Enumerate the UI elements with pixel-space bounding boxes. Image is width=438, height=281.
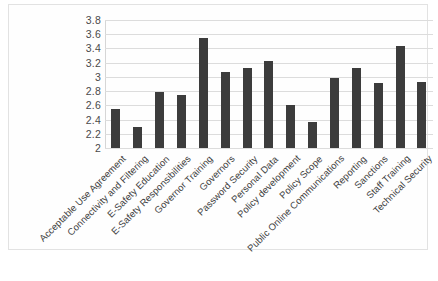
bar-slot — [214, 20, 236, 148]
bar-slot — [127, 20, 149, 148]
bar[interactable] — [417, 82, 426, 148]
bar[interactable] — [177, 95, 186, 148]
y-axis-tick-label: 2.2 — [61, 128, 101, 140]
bar[interactable] — [308, 122, 317, 148]
bar[interactable] — [155, 92, 164, 148]
y-axis-tick-label: 3.4 — [61, 42, 101, 54]
y-axis-tick-label: 3.2 — [61, 57, 101, 69]
bar[interactable] — [221, 72, 230, 148]
y-axis-tick-label: 3.8 — [61, 14, 101, 26]
gridline — [105, 148, 433, 149]
bar-slot — [345, 20, 367, 148]
plot-area: 3.83.63.43.232.82.62.42.22 — [105, 20, 433, 148]
bar-series — [105, 20, 433, 148]
y-axis-tick-label: 3 — [61, 71, 101, 83]
chart-frame: 3.83.63.43.232.82.62.42.22 Acceptable Us… — [8, 4, 428, 250]
y-axis-tick-label: 2.8 — [61, 85, 101, 97]
bar[interactable] — [352, 68, 361, 148]
bar-slot — [149, 20, 171, 148]
bar-slot — [367, 20, 389, 148]
bar[interactable] — [286, 105, 295, 148]
bar[interactable] — [374, 83, 383, 148]
bar-slot — [258, 20, 280, 148]
bar-slot — [236, 20, 258, 148]
bar[interactable] — [111, 109, 120, 148]
bar-slot — [324, 20, 346, 148]
bar-slot — [389, 20, 411, 148]
bar[interactable] — [330, 78, 339, 148]
y-axis-tick-label: 2.4 — [61, 114, 101, 126]
bar[interactable] — [264, 61, 273, 148]
bar-slot — [302, 20, 324, 148]
bar-slot — [411, 20, 433, 148]
bar[interactable] — [199, 38, 208, 148]
bar-slot — [171, 20, 193, 148]
bar-slot — [105, 20, 127, 148]
bar[interactable] — [396, 46, 405, 148]
bar[interactable] — [243, 68, 252, 148]
y-axis-tick-label: 2.6 — [61, 99, 101, 111]
bar-slot — [280, 20, 302, 148]
y-axis-tick-label: 3.6 — [61, 28, 101, 40]
bar[interactable] — [133, 127, 142, 148]
y-axis-tick-label: 2 — [61, 142, 101, 154]
bar-slot — [192, 20, 214, 148]
